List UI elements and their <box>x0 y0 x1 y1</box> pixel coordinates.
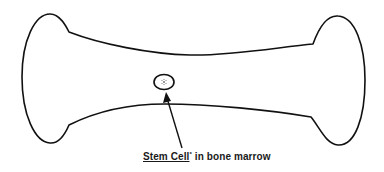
bone-diagram <box>0 0 384 172</box>
label-rest: in bone marrow <box>192 151 271 162</box>
stem-cell-term: Stem Cell <box>143 151 189 162</box>
bone-outline <box>22 14 365 145</box>
pointer-arrow-shaft <box>167 98 182 148</box>
pointer-arrow-head <box>163 92 171 103</box>
stem-cell-label: Stem Cell* in bone marrow <box>143 151 271 162</box>
